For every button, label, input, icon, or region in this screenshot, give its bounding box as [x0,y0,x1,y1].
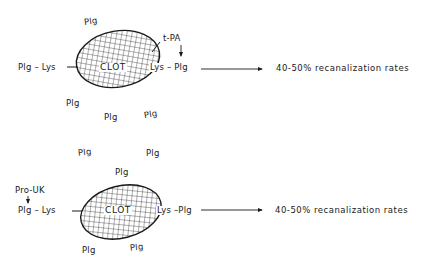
left-binding-label: Plg – Lys [18,206,56,215]
free-plg-label: Plg [78,147,92,157]
result-label: 40-50% recanalization rates [276,64,409,73]
clot-label: CLOT [99,63,127,72]
free-plg-label: Plg [146,149,159,158]
prouk-label: Pro-UK [15,186,45,195]
free-plg-label: Plg [66,99,79,108]
clot-top [72,24,164,94]
free-plg-label: Plg [104,113,117,122]
free-plg-label: Plg [115,168,128,177]
right-binding-label: Lys – Plg [149,63,189,72]
free-plg-label: Plg [143,109,158,120]
fibrinolysis-diagram: Plg Plg Plg Plg Plg – Lys CLOT t-PA Lys … [0,0,423,269]
clot-label: CLOT [104,206,132,215]
right-binding-label: Lys –Plg [156,206,193,215]
result-label: 40-50% recanalization rates [275,206,408,215]
left-binding-label: Plg – Lys [18,63,56,72]
tpa-label: t-PA [163,34,181,43]
free-plg-label: Plg [130,242,144,252]
diagram-graphics [0,0,423,269]
free-plg-label: Plg [83,16,98,26]
free-plg-label: Plg [82,246,95,255]
